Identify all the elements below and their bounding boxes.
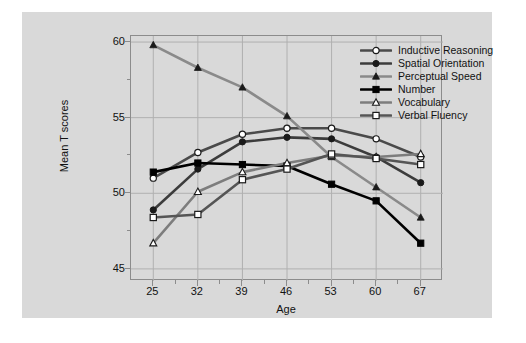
legend-item: Verbal Fluency [360,110,508,122]
legend-label: Number [398,84,435,95]
chart-figure: Mean T scores 45505560 25323946536067 Ag… [22,12,492,318]
legend-item: Number [360,84,508,96]
axis-tick [152,280,153,286]
axis-tick [397,280,398,284]
axis-tick [353,280,354,284]
axis-tick [420,280,421,286]
axis-tick [197,280,198,286]
legend-label: Spatial Orientation [398,58,484,69]
x-tick-label: 60 [369,285,381,297]
data-point [239,177,245,183]
axis-tick [375,280,376,286]
data-point [195,166,201,172]
data-point [328,125,334,131]
data-point [150,169,156,175]
data-point [239,131,245,137]
x-tick-label: 67 [414,285,426,297]
legend-item: Perceptual Speed [360,71,508,83]
axis-tick [241,280,242,286]
axis-tick [286,280,287,286]
chart-legend: Inductive ReasoningSpatial OrientationPe… [360,45,508,123]
axis-tick [127,230,131,231]
x-axis-tick-labels: 25323946536067 [130,285,442,301]
legend-marker-filled-square-icon [360,84,392,95]
axis-tick [175,280,176,284]
axis-tick [331,280,332,286]
legend-label: Vocabulary [398,97,450,108]
data-point [373,136,379,142]
x-tick-label: 32 [191,285,203,297]
data-point [195,211,201,217]
data-point [418,180,424,186]
data-point [373,155,379,161]
data-point [328,181,334,187]
data-point [284,166,290,172]
axis-tick [219,280,220,284]
y-tick-label: 45 [113,262,125,274]
x-tick-label: 39 [235,285,247,297]
legend-item: Inductive Reasoning [360,45,508,57]
axis-tick [125,41,131,42]
legend-marker-open-triangle-icon [360,97,392,108]
data-point [195,149,201,155]
axis-tick [264,280,265,284]
legend-marker-filled-triangle-icon [360,71,392,82]
x-axis-title: Age [130,303,442,315]
axis-tick [125,192,131,193]
data-point [150,175,156,181]
legend-label: Perceptual Speed [398,71,481,82]
y-axis-tick-labels: 45505560 [82,35,125,280]
axis-tick [308,280,309,284]
axis-tick [125,117,131,118]
data-point [418,161,424,167]
y-axis-title: Mean T scores [58,76,70,196]
legend-marker-open-circle-icon [360,45,392,56]
legend-label: Verbal Fluency [398,110,467,121]
legend-item: Spatial Orientation [360,58,508,70]
data-point [328,151,334,157]
legend-label: Inductive Reasoning [398,45,493,56]
data-point [150,207,156,213]
axis-tick [127,154,131,155]
data-point [195,160,201,166]
axis-tick [127,79,131,80]
data-point [150,214,156,220]
x-tick-label: 25 [146,285,158,297]
data-point [328,136,334,142]
data-point [284,134,290,140]
y-tick-label: 55 [113,111,125,123]
legend-marker-filled-circle-icon [360,58,392,69]
x-tick-label: 53 [324,285,336,297]
x-tick-label: 46 [280,285,292,297]
legend-item: Vocabulary [360,97,508,109]
y-tick-label: 50 [113,186,125,198]
data-point [284,125,290,131]
data-point [418,240,424,246]
legend-marker-open-square-icon [360,110,392,121]
y-tick-label: 60 [113,35,125,47]
data-point [239,161,245,167]
axis-tick [125,268,131,269]
data-point [373,198,379,204]
data-point [239,139,245,145]
